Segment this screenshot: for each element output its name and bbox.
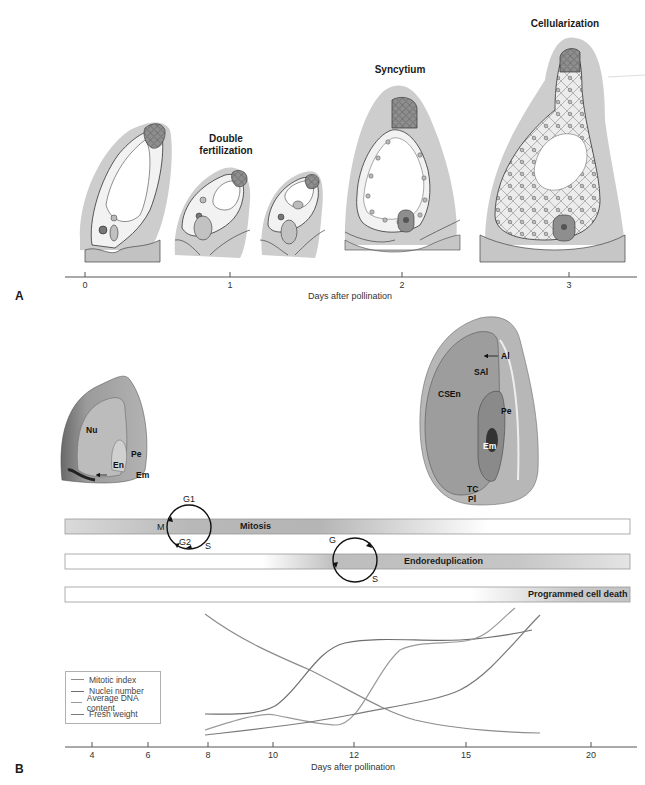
endoreduplication-label: Endoreduplication [404, 556, 483, 566]
diagram-canvas [0, 0, 645, 785]
tick-label-b-15: 15 [461, 750, 471, 760]
label-nu: Nu [86, 425, 97, 435]
panel-a-letter: A [15, 289, 24, 303]
stage-double-fertilization-2 [260, 171, 325, 258]
average-dna-content-line [205, 608, 515, 730]
growth-chart [205, 608, 540, 735]
label-pl: Pl [468, 494, 476, 504]
panel-a-axis [65, 272, 637, 277]
mitosis-bar [65, 519, 630, 534]
programmed-cell-death-label: Programmed cell death [528, 589, 628, 599]
title-syncytium: Syncytium [360, 64, 440, 76]
mitosis-label: Mitosis [240, 521, 271, 531]
label-tc: TC [467, 484, 478, 494]
tick-label-b-12: 12 [349, 750, 359, 760]
label-sal: SAl [474, 367, 488, 377]
early-seed-section [61, 376, 147, 483]
mitotic-index-line [205, 614, 540, 733]
tick-label-b-10: 10 [268, 750, 278, 760]
panel-b-axis [65, 742, 637, 747]
endo-cycle-label-s: S [372, 574, 378, 584]
label-em-late: Em [483, 441, 496, 451]
tick-label-a-0: 0 [82, 280, 87, 290]
stage-cellularization [480, 38, 625, 262]
panel-a-axis-label: Days after pollination [308, 291, 392, 301]
tick-label-b-20: 20 [586, 750, 596, 760]
endo-cycle-label-g: G [329, 535, 336, 545]
label-al: Al [501, 351, 510, 361]
legend-swatch [71, 679, 84, 680]
label-csen: CSEn [438, 389, 461, 399]
legend-swatch [71, 714, 84, 715]
label-pe-early: Pe [131, 449, 141, 459]
title-double-fertilization: Double fertilization [196, 133, 256, 157]
label-pe-late: Pe [501, 406, 511, 416]
cycle-label-g2: G2 [179, 537, 191, 547]
endoreduplication-bar [65, 554, 630, 569]
legend-item-average-dna-content: Average DNA content [71, 697, 155, 709]
stage-embryo-sac-day0 [80, 123, 172, 263]
late-seed-section [420, 317, 538, 505]
title-line-1: Double [196, 133, 256, 145]
legend-swatch [71, 691, 84, 692]
panel-b-axis-label: Days after pollination [311, 762, 395, 772]
legend-swatch [71, 702, 82, 703]
tick-label-a-2: 2 [399, 280, 404, 290]
decorative-line [608, 75, 645, 77]
tick-label-b-4: 4 [89, 750, 94, 760]
tick-label-a-1: 1 [227, 280, 232, 290]
nuclei-number-line [205, 630, 532, 714]
panel-b-letter: B [15, 762, 24, 776]
tick-label-b-6: 6 [145, 750, 150, 760]
cycle-label-s: S [205, 541, 211, 551]
legend-item-mitotic-index: Mitotic index [71, 674, 155, 686]
title-line-2: fertilization [196, 145, 256, 157]
chart-legend: Mitotic index Nuclei number Average DNA … [65, 671, 161, 724]
stage-syncytium [345, 86, 460, 252]
cycle-label-g1: G1 [183, 494, 195, 504]
stage-double-fertilization-1 [175, 167, 251, 258]
label-em-early: Em [136, 470, 149, 480]
tick-label-b-8: 8 [205, 750, 210, 760]
title-cellularization: Cellularization [520, 18, 610, 30]
cycle-label-m: M [157, 522, 165, 532]
label-en: En [113, 460, 124, 470]
fresh-weight-line [205, 615, 540, 735]
tick-label-a-3: 3 [566, 280, 571, 290]
